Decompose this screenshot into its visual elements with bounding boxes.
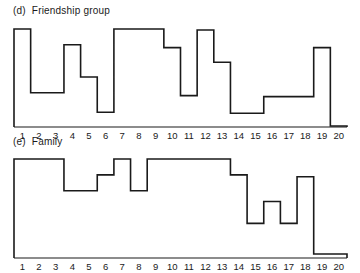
x-tick-label: 19: [317, 130, 328, 141]
x-tick-label: 13: [217, 261, 228, 272]
x-tick-label: 20: [333, 261, 344, 272]
step-line: [14, 29, 347, 127]
x-tick-label: 13: [217, 130, 228, 141]
x-tick-label: 17: [283, 130, 294, 141]
x-tick-label: 11: [184, 130, 194, 141]
x-tick-label: 15: [250, 130, 261, 141]
chart-family: 1234567891011121314151617181920: [14, 159, 347, 272]
x-tick-label: 6: [103, 261, 108, 272]
x-tick-label: 7: [120, 261, 125, 272]
x-tick-label: 12: [200, 130, 211, 141]
x-tick-label: 18: [300, 130, 311, 141]
x-tick-label: 3: [53, 261, 58, 272]
x-tick-label: 14: [233, 130, 244, 141]
x-tick-label: 5: [86, 130, 91, 141]
x-tick-label: 15: [250, 261, 261, 272]
x-tick-label: 3: [53, 130, 58, 141]
step-charts: 1234567891011121314151617181920 12345678…: [0, 0, 360, 273]
x-tick-label: 10: [167, 130, 178, 141]
x-tick-label: 16: [267, 130, 278, 141]
x-tick-label: 11: [184, 261, 194, 272]
x-tick-label: 4: [70, 261, 75, 272]
x-tick-label: 10: [167, 261, 178, 272]
x-tick-label: 12: [200, 261, 211, 272]
x-tick-label: 19: [317, 261, 328, 272]
x-tick-label: 18: [300, 261, 311, 272]
x-tick-label: 4: [70, 130, 75, 141]
x-tick-label: 9: [153, 130, 158, 141]
x-tick-label: 7: [120, 130, 125, 141]
x-tick-label: 2: [36, 130, 41, 141]
x-tick-label: 6: [103, 130, 108, 141]
x-tick-label: 2: [36, 261, 41, 272]
x-tick-label: 14: [233, 261, 244, 272]
x-tick-label: 5: [86, 261, 91, 272]
x-tick-label: 17: [283, 261, 294, 272]
step-line: [14, 159, 347, 258]
chart-friendship-group: 1234567891011121314151617181920: [14, 29, 347, 141]
x-tick-label: 1: [20, 130, 25, 141]
x-tick-label: 8: [136, 261, 141, 272]
x-tick-label: 9: [153, 261, 158, 272]
x-tick-label: 16: [267, 261, 278, 272]
x-tick-label: 8: [136, 130, 141, 141]
x-tick-label: 20: [333, 130, 344, 141]
x-tick-label: 1: [20, 261, 25, 272]
